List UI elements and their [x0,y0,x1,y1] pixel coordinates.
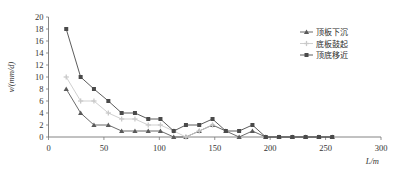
series-marker-3 [330,135,334,139]
series-marker-3 [146,117,150,121]
x-tick-label: 150 [208,143,221,153]
series-marker-3 [224,129,228,133]
y-tick-label: 8 [39,84,43,94]
x-tick-label: 250 [319,143,332,153]
series-marker-3 [317,135,321,139]
legend-label-1: 顶板下沉 [316,27,348,37]
series-marker-1 [78,110,83,115]
y-tick-label: 16 [35,36,44,46]
y-axis-title: v/(mm/d) [6,61,16,92]
legend-label-3: 顶底移近 [316,50,348,60]
series-line-2 [66,77,212,137]
x-tick-label: 50 [100,143,109,153]
x-axis-title: L/m [365,156,379,166]
y-tick-label: 14 [35,48,44,58]
series-line-3 [66,29,332,137]
legend-marker-3 [305,53,309,57]
y-tick-label: 18 [35,24,44,34]
y-tick-label: 0 [39,132,43,142]
series-marker-3 [237,129,241,133]
series-marker-3 [158,117,162,121]
series-marker-3 [290,135,294,139]
x-tick-label: 300 [375,143,388,153]
y-tick-label: 12 [35,60,44,70]
series-marker-3 [250,123,254,127]
series-marker-3 [172,129,176,133]
series-marker-3 [92,87,96,91]
series-marker-3 [197,123,201,127]
y-tick-label: 20 [35,12,44,22]
y-tick-label: 10 [35,72,44,82]
y-tick-label: 2 [39,120,43,130]
series-marker-3 [277,135,281,139]
series-marker-3 [120,111,124,115]
series-marker-3 [106,99,110,103]
series-marker-3 [304,135,308,139]
series-marker-3 [184,123,188,127]
y-tick-label: 4 [39,108,44,118]
line-chart-canvas: 02468101214161820050100150200250300v/(mm… [0,0,397,174]
series-marker-3 [264,135,268,139]
series-marker-3 [64,27,68,31]
series-marker-1 [250,128,255,133]
x-tick-label: 0 [46,143,50,153]
series-marker-3 [133,111,137,115]
chart-figure: 02468101214161820050100150200250300v/(mm… [0,0,397,174]
series-marker-1 [64,86,69,91]
series-marker-3 [79,75,83,79]
series-marker-3 [211,117,215,121]
x-tick-label: 100 [153,143,166,153]
x-tick-label: 200 [264,143,277,153]
y-tick-label: 6 [39,96,43,106]
legend-label-2: 底板鼓起 [316,39,348,49]
